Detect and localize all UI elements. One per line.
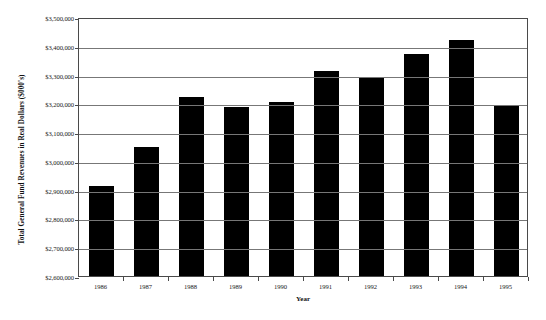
gridline — [79, 192, 527, 193]
gridline — [79, 134, 527, 135]
x-axis-tick-label: 1988 — [171, 283, 211, 291]
y-axis-tick-mark — [75, 192, 79, 193]
bars-layer — [79, 19, 527, 276]
bar — [359, 77, 384, 276]
y-axis-tick-label: $3,000,000 — [22, 158, 74, 165]
y-axis-tick-label: $3,100,000 — [22, 130, 74, 137]
y-axis-tick-label: $2,800,000 — [22, 216, 74, 223]
x-axis-tick-label: 1994 — [441, 283, 481, 291]
y-axis-tick-label: $3,300,000 — [22, 72, 74, 79]
y-axis-tick-labels: $2,600,000$2,700,000$2,800,000$2,900,000… — [24, 18, 78, 277]
y-axis-tick-label: $2,700,000 — [22, 245, 74, 252]
x-axis-tick-mark — [438, 277, 439, 281]
x-axis-tick-mark — [123, 277, 124, 281]
x-axis-tick-mark — [483, 277, 484, 281]
y-axis-tick-label: $3,200,000 — [22, 101, 74, 108]
y-axis-tick-mark — [75, 19, 79, 20]
y-axis-tick-label: $3,500,000 — [22, 15, 74, 22]
bar — [404, 54, 429, 276]
x-axis-tick-labels: 1986198719881989199019911992199319941995 — [78, 277, 528, 293]
x-axis-tick-label: 1993 — [396, 283, 436, 291]
x-axis-tick-label: 1995 — [486, 283, 526, 291]
gridline — [79, 220, 527, 221]
x-axis-tick-mark — [258, 277, 259, 281]
y-axis-tick-mark — [75, 77, 79, 78]
gridline — [79, 77, 527, 78]
y-axis-tick-label: $3,400,000 — [22, 43, 74, 50]
x-axis-tick-label: 1986 — [81, 283, 121, 291]
x-axis-tick-mark — [528, 277, 529, 281]
plot-area — [78, 18, 528, 277]
y-axis-tick-mark — [75, 105, 79, 106]
x-axis-tick-label: 1990 — [261, 283, 301, 291]
x-axis-tick-mark — [303, 277, 304, 281]
y-axis-tick-mark — [75, 163, 79, 164]
x-axis-tick-label: 1992 — [351, 283, 391, 291]
y-axis-tick-mark — [75, 249, 79, 250]
y-axis-tick-mark — [75, 134, 79, 135]
x-axis-tick-mark — [393, 277, 394, 281]
x-axis-tick-mark — [168, 277, 169, 281]
gridline — [79, 249, 527, 250]
x-axis-title: Year — [78, 295, 528, 303]
gridline — [79, 48, 527, 49]
x-axis-tick-label: 1991 — [306, 283, 346, 291]
y-axis-tick-label: $2,600,000 — [22, 274, 74, 281]
gridline — [79, 163, 527, 164]
y-axis-tick-mark — [75, 220, 79, 221]
x-axis-tick-label: 1989 — [216, 283, 256, 291]
bar — [314, 71, 339, 276]
bar — [449, 40, 474, 276]
x-axis-tick-label: 1987 — [126, 283, 166, 291]
bar — [134, 147, 159, 277]
bar — [89, 186, 114, 276]
x-axis-tick-mark — [348, 277, 349, 281]
x-axis-tick-mark — [213, 277, 214, 281]
gridline — [79, 105, 527, 106]
bar-chart: Total General Fund Revenues in Real Doll… — [0, 0, 546, 320]
y-axis-tick-label: $2,900,000 — [22, 187, 74, 194]
y-axis-tick-mark — [75, 48, 79, 49]
